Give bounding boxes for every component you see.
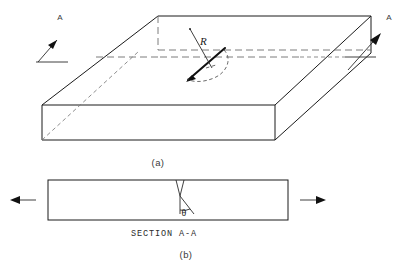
caption-panel-b: (b) xyxy=(180,249,193,260)
slab-top-face xyxy=(42,16,371,105)
section-arrow-right xyxy=(348,33,381,70)
section-rectangle xyxy=(48,180,288,220)
section-label-a-left: A xyxy=(57,13,63,22)
crack-plane-line xyxy=(188,48,225,80)
figure-container: A A R xyxy=(0,0,407,268)
slab-right-face xyxy=(275,16,371,140)
caption-panel-a: (a) xyxy=(152,157,165,168)
angle-theta-label: θ xyxy=(182,207,187,218)
radius-origin-dot xyxy=(189,28,191,30)
panel-a-group: A A R xyxy=(36,13,392,168)
section-title: SECTION A-A xyxy=(131,229,197,239)
left-load-head xyxy=(10,196,20,204)
panel-b-group: θ SECTION A-A (b) xyxy=(10,180,326,260)
section-label-a-right: A xyxy=(386,13,392,22)
top-face-outline xyxy=(42,16,371,105)
crack-notch-v xyxy=(176,180,184,196)
load-arrow-left xyxy=(10,196,36,204)
embedded-crack xyxy=(186,48,225,82)
load-arrow-right xyxy=(300,196,326,204)
engineering-figure: A A R xyxy=(0,0,407,268)
section-arrow-left xyxy=(38,40,57,62)
right-load-head xyxy=(316,196,326,204)
hidden-left-diagonal xyxy=(42,52,138,140)
right-face-outline xyxy=(275,16,371,140)
slab-front-face xyxy=(42,105,275,140)
front-face-outline xyxy=(42,105,275,140)
left-arrow-head xyxy=(48,40,57,49)
crack-radius-label: R xyxy=(199,35,207,47)
